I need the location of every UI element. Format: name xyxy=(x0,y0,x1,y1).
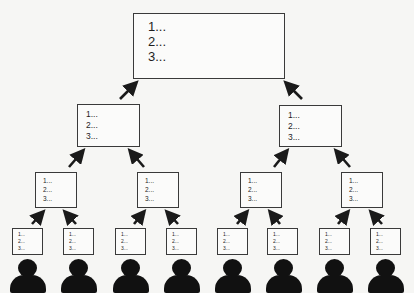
list-item: 1... xyxy=(18,231,25,238)
summary-box-level-4: 1... 2... 3... xyxy=(319,228,350,255)
arrow-l2b-to-l1 xyxy=(287,84,302,99)
summary-box-level-4: 1... 2... 3... xyxy=(267,228,298,255)
list-item: 3... xyxy=(248,194,257,203)
list-item: 3... xyxy=(376,245,383,252)
person-silhouette-icon xyxy=(266,259,302,293)
list-item: 3... xyxy=(18,245,25,252)
list-item: 1... xyxy=(121,231,128,238)
list-item: 3... xyxy=(349,194,358,203)
person-silhouette-icon xyxy=(164,259,200,293)
person-silhouette-icon xyxy=(61,259,97,293)
list-item: 3... xyxy=(43,194,52,203)
list-item: 1... xyxy=(376,231,383,238)
list-item: 3... xyxy=(148,49,166,64)
list-item: 2... xyxy=(43,185,52,194)
summary-box-level-1: 1... 2... 3... xyxy=(133,13,285,79)
list-item: 2... xyxy=(223,238,230,245)
summary-box-level-2: 1... 2... 3... xyxy=(77,104,140,147)
list-item: 2... xyxy=(18,238,25,245)
list-item: 2... xyxy=(172,238,179,245)
list-item: 2... xyxy=(145,185,154,194)
summary-box-level-3: 1... 2... 3... xyxy=(240,172,282,208)
person-silhouette-icon xyxy=(368,259,404,293)
list-item: 2... xyxy=(248,185,257,194)
list-item: 2... xyxy=(349,185,358,194)
list-item: 1... xyxy=(86,109,98,120)
list-item: 1... xyxy=(288,110,300,121)
summary-box-level-2: 1... 2... 3... xyxy=(279,105,342,147)
person-silhouette-icon xyxy=(317,259,353,293)
summary-box-level-4: 1... 2... 3... xyxy=(370,228,401,255)
list-item: 1... xyxy=(248,176,257,185)
summary-box-level-3: 1... 2... 3... xyxy=(35,172,77,208)
list-item: 2... xyxy=(121,238,128,245)
list-item: 3... xyxy=(223,245,230,252)
list-item: 1... xyxy=(172,231,179,238)
summary-box-level-3: 1... 2... 3... xyxy=(137,172,179,208)
list-item: 2... xyxy=(273,238,280,245)
list-item: 1... xyxy=(69,231,76,238)
list-item: 3... xyxy=(121,245,128,252)
list-item: 2... xyxy=(69,238,76,245)
list-item: 2... xyxy=(288,121,300,132)
list-item: 2... xyxy=(86,120,98,131)
list-item: 3... xyxy=(325,245,332,252)
list-item: 2... xyxy=(376,238,383,245)
list-item: 3... xyxy=(145,194,154,203)
person-silhouette-icon xyxy=(10,259,46,293)
list-item: 1... xyxy=(273,231,280,238)
summary-box-level-4: 1... 2... 3... xyxy=(115,228,146,255)
summary-box-level-4: 1... 2... 3... xyxy=(63,228,94,255)
list-item: 3... xyxy=(172,245,179,252)
list-item: 2... xyxy=(148,34,166,49)
list-item: 2... xyxy=(325,238,332,245)
summary-box-level-3: 1... 2... 3... xyxy=(341,172,383,208)
person-silhouette-icon xyxy=(215,259,251,293)
list-item: 3... xyxy=(273,245,280,252)
list-item: 3... xyxy=(69,245,76,252)
list-item: 1... xyxy=(145,176,154,185)
list-item: 1... xyxy=(148,19,166,34)
person-silhouette-icon xyxy=(113,259,149,293)
list-item: 1... xyxy=(43,176,52,185)
arrow-l2a-to-l1 xyxy=(120,84,135,99)
summary-box-level-4: 1... 2... 3... xyxy=(217,228,248,255)
list-item: 1... xyxy=(223,231,230,238)
summary-box-level-4: 1... 2... 3... xyxy=(166,228,197,255)
list-item: 1... xyxy=(349,176,358,185)
list-item: 1... xyxy=(325,231,332,238)
summary-box-level-4: 1... 2... 3... xyxy=(12,228,43,255)
list-item: 3... xyxy=(288,132,300,143)
list-item: 3... xyxy=(86,131,98,142)
